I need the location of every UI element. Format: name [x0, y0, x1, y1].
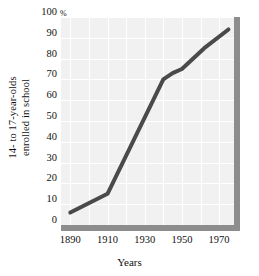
- plot-area: [61, 17, 234, 225]
- x-axis-tick-labels: 18901910193019501970: [0, 234, 259, 250]
- plot-frame-right-bar: [234, 17, 240, 231]
- x-axis-tick-label: 1970: [199, 234, 239, 245]
- y-axis-tick-label: 90: [27, 28, 57, 39]
- x-axis-tick-label: 1890: [50, 234, 90, 245]
- y-axis-tick-label: 100: [27, 7, 57, 18]
- y-axis-tick-label: 30: [27, 153, 57, 164]
- x-axis-title: Years: [0, 256, 259, 268]
- y-axis-tick-label: 50: [27, 111, 57, 122]
- y-axis-tick-label: 80: [27, 49, 57, 60]
- x-axis-tick-label: 1910: [88, 234, 128, 245]
- y-axis-tick-label: 70: [27, 69, 57, 80]
- y-axis-tick-label: 60: [27, 90, 57, 101]
- y-axis-tick-label: 10: [27, 194, 57, 205]
- x-axis-tick-label: 1930: [125, 234, 165, 245]
- plot-frame-bottom-bar: [61, 225, 240, 231]
- line-chart: 14- to 17-year-olds enrolled in school %…: [0, 0, 259, 276]
- y-axis-tick-label: 40: [27, 132, 57, 143]
- y-axis-tick-labels: 0102030405060708090100: [27, 12, 57, 224]
- y-axis-tick-label: 0: [27, 215, 57, 226]
- x-axis-tick-label: 1950: [162, 234, 202, 245]
- y-axis-title-line-1: 14- to 17-year-olds: [7, 33, 20, 203]
- y-axis-tick-label: 20: [27, 173, 57, 184]
- data-series-line: [61, 17, 234, 225]
